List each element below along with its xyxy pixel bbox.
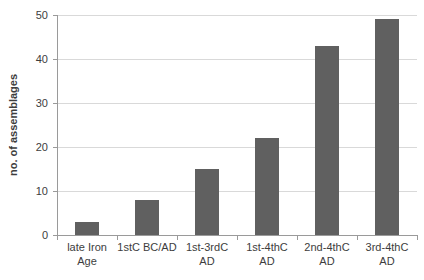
x-label-line: late Iron bbox=[57, 240, 117, 254]
y-axis-line bbox=[57, 15, 58, 236]
y-tick-label-40: 40 bbox=[14, 53, 48, 65]
x-label-line: 1st-3rdC bbox=[177, 240, 237, 254]
gridline-y-20 bbox=[57, 147, 417, 148]
x-tick-mark-6 bbox=[417, 236, 418, 240]
x-label-line: AD bbox=[297, 254, 357, 268]
y-tick-label-30: 30 bbox=[14, 97, 48, 109]
y-tick-mark-40 bbox=[53, 59, 57, 60]
x-label-line: 3rd-4thC bbox=[357, 240, 417, 254]
y-tick-label-50: 50 bbox=[14, 9, 48, 21]
x-label-line: 1st-4thC bbox=[237, 240, 297, 254]
bar-chart: no. of assemblages 01020304050 late Iron… bbox=[0, 0, 424, 280]
x-label-line: 2nd-4thC bbox=[297, 240, 357, 254]
x-label-line: AD bbox=[237, 254, 297, 268]
y-tick-mark-10 bbox=[53, 191, 57, 192]
gridline-y-30 bbox=[57, 103, 417, 104]
gridline-y-40 bbox=[57, 59, 417, 60]
x-label-line: 1stC BC/AD bbox=[117, 240, 177, 254]
bar-2nd-4thc-ad bbox=[315, 46, 339, 235]
x-label-1stc-bc-ad: 1stC BC/AD bbox=[117, 240, 177, 254]
y-tick-mark-30 bbox=[53, 103, 57, 104]
y-tick-label-20: 20 bbox=[14, 141, 48, 153]
y-tick-mark-50 bbox=[53, 15, 57, 16]
plot-area bbox=[57, 15, 417, 235]
x-label-line: Age bbox=[57, 254, 117, 268]
bar-late-iron-age bbox=[75, 222, 99, 235]
gridline-y-10 bbox=[57, 191, 417, 192]
bar-1st-3rdc-ad bbox=[195, 169, 219, 235]
y-tick-label-10: 10 bbox=[14, 185, 48, 197]
x-label-1st-3rdc-ad: 1st-3rdCAD bbox=[177, 240, 237, 268]
y-axis-title: no. of assemblages bbox=[7, 74, 19, 176]
y-tick-mark-20 bbox=[53, 147, 57, 148]
y-tick-label-0: 0 bbox=[14, 229, 48, 241]
gridline-y-50 bbox=[57, 15, 417, 16]
x-label-3rd-4thc-ad: 3rd-4thCAD bbox=[357, 240, 417, 268]
x-label-2nd-4thc-ad: 2nd-4thCAD bbox=[297, 240, 357, 268]
bar-1stc-bc-ad bbox=[135, 200, 159, 235]
x-label-late-iron-age: late IronAge bbox=[57, 240, 117, 268]
bar-1st-4thc-ad bbox=[255, 138, 279, 235]
bar-3rd-4thc-ad bbox=[375, 19, 399, 235]
x-label-1st-4thc-ad: 1st-4thCAD bbox=[237, 240, 297, 268]
x-label-line: AD bbox=[177, 254, 237, 268]
x-label-line: AD bbox=[357, 254, 417, 268]
